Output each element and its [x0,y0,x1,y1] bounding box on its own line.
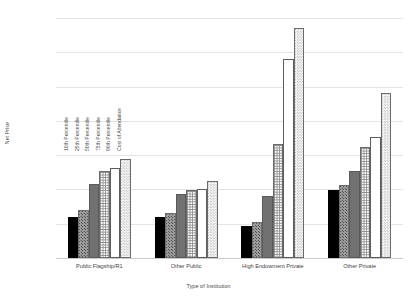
bar[interactable] [360,147,371,258]
bar[interactable] [349,171,360,258]
bar[interactable] [155,217,166,258]
bar[interactable] [294,28,305,258]
legend-entry[interactable]: 10th Percentile [63,117,69,151]
bar[interactable] [110,168,121,258]
plot-area: $0$10,000$20,000$30,000$40,000$50,000$60… [56,18,403,258]
bars [143,18,230,258]
bar[interactable] [197,189,208,258]
bar[interactable] [283,59,294,258]
bar[interactable] [328,190,339,258]
bar[interactable] [207,181,218,258]
y-axis-title: Net Price [4,103,10,163]
legend-entry[interactable]: Cost of Attendance [116,108,122,151]
bar[interactable] [89,184,100,258]
bar[interactable] [273,144,284,258]
x-axis-category-label: Other Private [316,263,403,269]
bar[interactable] [176,194,187,258]
bar[interactable] [186,190,197,258]
bar[interactable] [381,93,392,258]
x-axis-title: Type of Institution [0,283,417,289]
bar[interactable] [78,210,89,258]
legend-entry[interactable]: 75th Percentile [95,117,101,151]
legend-entry[interactable]: 50th Percentile [84,117,90,151]
bar[interactable] [165,213,176,258]
bar[interactable] [68,217,79,258]
bar[interactable] [252,222,263,258]
bars [230,18,317,258]
bar[interactable] [339,185,350,258]
x-axis-category-label: Public Flagship/R1 [56,263,143,269]
legend-entry[interactable]: 25th Percentile [74,117,80,151]
bar-group: Other Public [143,18,230,258]
bar-group: High Endowment Private [230,18,317,258]
bar[interactable] [370,137,381,258]
gridline [56,258,403,259]
net-price-bar-chart: Net Price Type of Institution $0$10,000$… [0,0,417,300]
legend-entry[interactable]: 90th Percentile [105,117,111,151]
bars [316,18,403,258]
bar[interactable] [241,226,252,258]
bar[interactable] [262,196,273,258]
x-axis-category-label: High Endowment Private [230,263,317,269]
x-axis-category-label: Other Public [143,263,230,269]
bar-group: Other Private [316,18,403,258]
bar[interactable] [99,171,110,258]
bar[interactable] [120,159,131,258]
